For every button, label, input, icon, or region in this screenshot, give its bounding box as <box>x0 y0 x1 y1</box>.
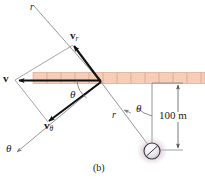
label-v-radial: vr <box>70 30 78 42</box>
label-v-resultant: v <box>3 73 9 84</box>
figure-caption: (b) <box>93 163 105 173</box>
label-theta-ball: θ <box>136 103 141 114</box>
ball-object <box>136 137 168 165</box>
r-axis-arrow-upper <box>34 6 101 82</box>
physics-figure-b: r vr v vθ θ θ r θ 100 m (b) <box>0 0 205 179</box>
figure-canvas <box>0 0 205 179</box>
label-theta-lower-left: θ <box>6 143 11 154</box>
radial-axis-line-upper <box>34 6 101 82</box>
vector-v-theta <box>49 82 101 121</box>
label-r-lower: r <box>112 110 116 120</box>
label-v-radial-sub: r <box>76 34 79 43</box>
roadway-strip <box>33 73 205 84</box>
label-v-theta-sub: θ <box>50 124 54 133</box>
label-r-upper: r <box>30 2 34 12</box>
theta-leader-ball <box>124 110 131 113</box>
label-dimension-100m: 100 m <box>159 110 187 121</box>
roadway-surface <box>33 73 205 84</box>
label-theta-center: θ <box>70 89 75 100</box>
parallelogram-side-bottom <box>15 80 48 122</box>
label-v-theta: vθ <box>44 120 53 132</box>
